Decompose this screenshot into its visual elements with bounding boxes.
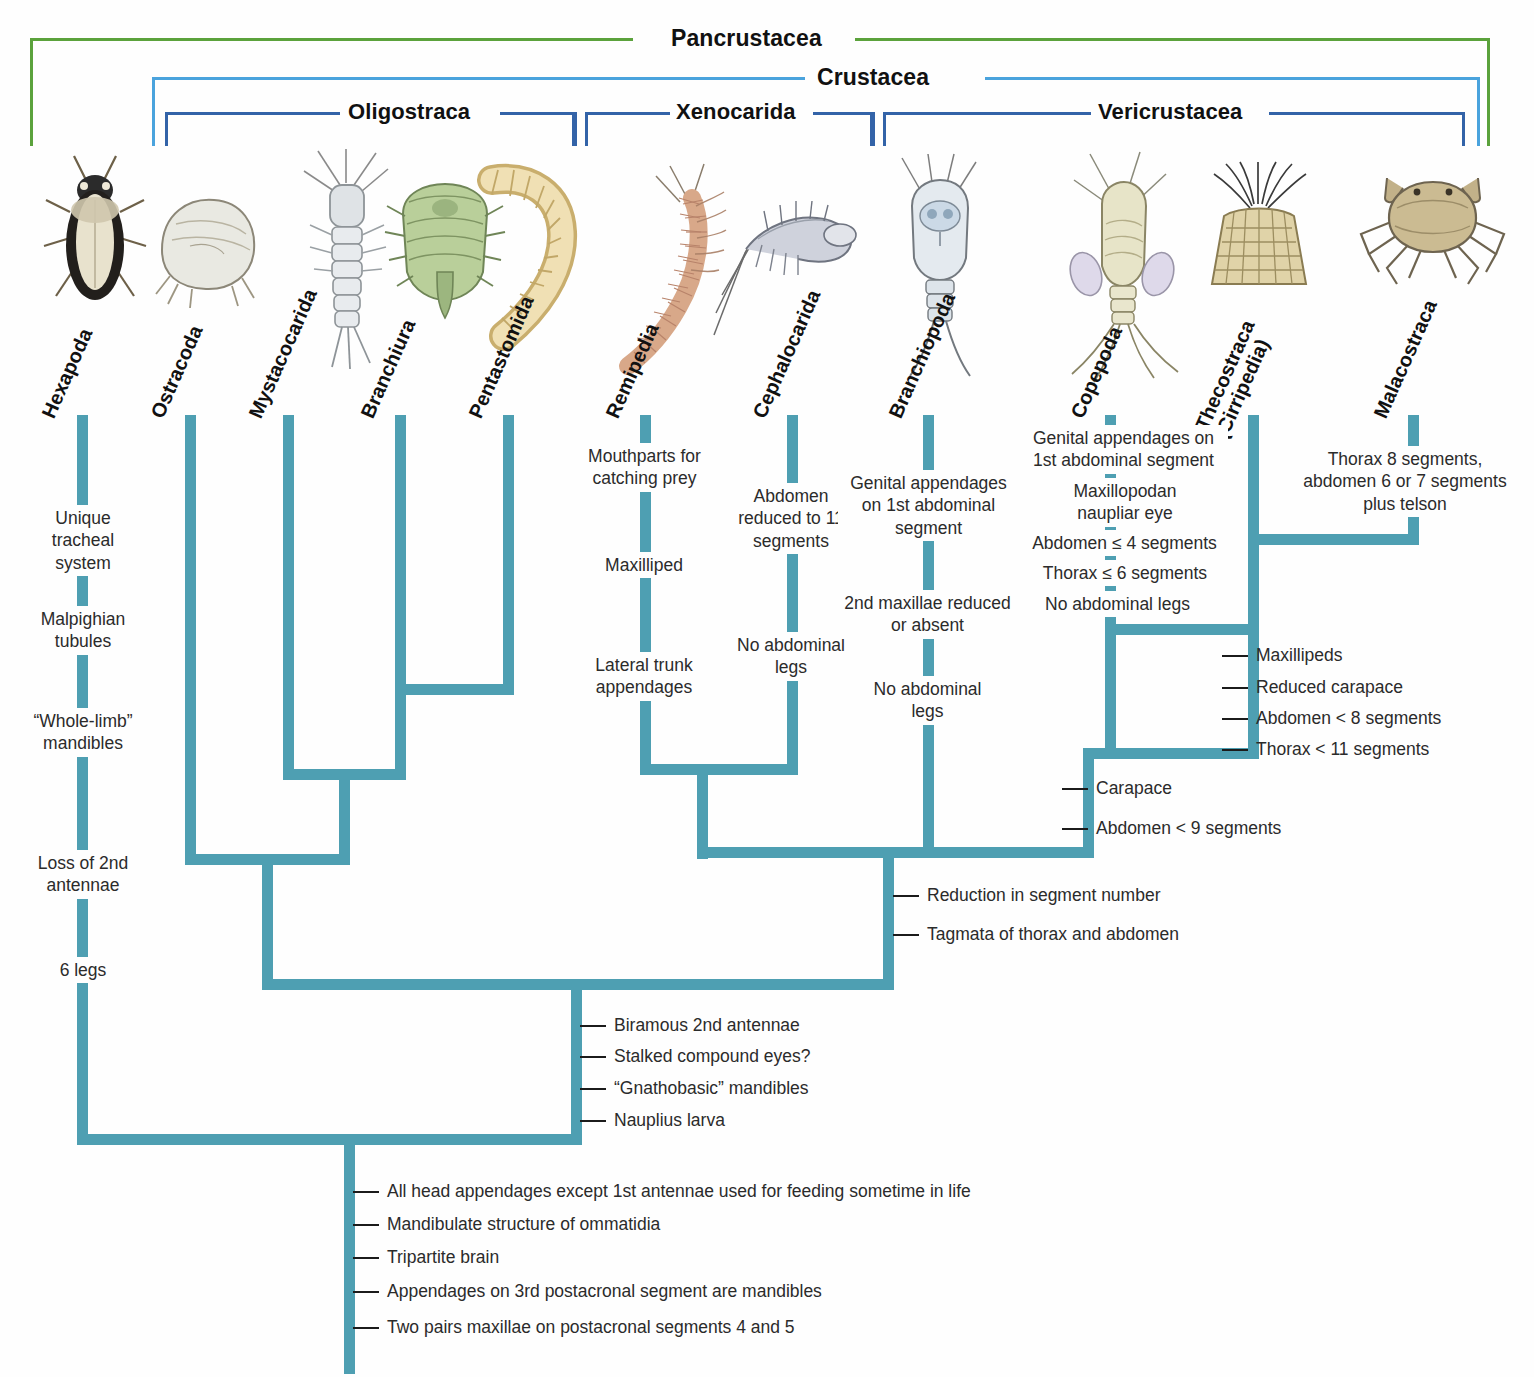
node-copepoda-clade-bar [1105,624,1259,635]
taxon-label-malacostraca: Malacostraca [1370,297,1441,422]
node-tick-label: Carapace [1096,778,1172,799]
character-copepoda-1: Genital appendages on1st abdominal segme… [1019,425,1228,474]
node-tick-root-1: All head appendages except 1st antennae … [353,1181,971,1202]
character-remipedia-2: Maxilliped [582,552,706,578]
node-tick-label: “Gnathobasic” mandibles [614,1078,809,1099]
node-tick-label: Stalked compound eyes? [614,1046,811,1067]
character-hexapoda-1: Uniquetrachealsystem [6,505,160,576]
character-hexapoda-3: “Whole-limb”mandibles [2,708,164,757]
node-vericrustacea-right-stem [1083,748,1094,858]
character-copepoda-4: Thorax ≤ 6 segments [1027,560,1223,586]
character-hexapoda-5: 6 legs [26,957,140,983]
leader-dash [1062,788,1088,790]
bracket-label-oligostraca: Oligostraca [348,101,470,123]
node-tick-label: Abdomen < 9 segments [1096,818,1281,839]
node-tick-crustacea-2: Stalked compound eyes? [580,1046,811,1067]
branch-ostracoda [185,415,196,865]
node-tick-label: Reduced carapace [1256,677,1403,698]
node-tick-label: Nauplius larva [614,1110,725,1131]
leader-dash [893,934,919,936]
node-tick-label: Two pairs maxillae on postacronal segmen… [387,1317,795,1338]
artwork-ostracoda [150,190,265,315]
artwork-remipedia [600,160,730,375]
branch-branchiura [395,415,406,695]
character-cephalocarida-2: No abdominallegs [713,632,869,681]
node-tick-vericrustacea-2: Abdomen < 9 segments [1062,818,1281,839]
leader-dash [1222,687,1248,689]
node-tick-thecomalaco-1: Maxillipeds [1222,645,1343,666]
leader-dash [1062,828,1088,830]
node-tick-root-5: Two pairs maxillae on postacronal segmen… [353,1317,795,1338]
node-vericrustacea-bar [923,847,1094,858]
leader-dash [353,1191,379,1193]
leader-dash [580,1120,606,1122]
node-tick-crustacea-3: “Gnathobasic” mandibles [580,1078,809,1099]
bracket-oligostraca: Oligostraca [165,112,575,146]
character-branchiopoda-1: Genital appendageson 1st abdominalsegmen… [838,470,1019,541]
branch-mystacocarida [283,415,294,780]
artwork-malacostraca [1355,168,1510,293]
taxon-label-thecostraca: Thecostraca (Cirripedia) [1192,317,1278,442]
node-tick-crustacea-1: Biramous 2nd antennae [580,1015,800,1036]
branch-pentastomida [503,415,514,695]
node-copepoda-clade-stem [1105,624,1116,759]
node-tick-label: Mandibulate structure of ommatidia [387,1214,660,1235]
phylogeny-figure: Pancrustacea Crustacea Oligostraca Xenoc… [0,0,1534,1377]
node-oligostraca-stem [262,854,273,990]
character-malacostraca-1: Thorax 8 segments,abdomen 6 or 7 segment… [1292,446,1518,517]
character-remipedia-3: Lateral trunkappendages [574,652,714,701]
bracket-xenocarida: Xenocarida [585,112,873,146]
bracket-label-vericrustacea: Vericrustacea [1098,101,1242,123]
node-tick-xenoveri-1: Reduction in segment number [893,885,1160,906]
node-tick-thecomalaco-3: Abdomen < 8 segments [1222,708,1441,729]
node-tick-label: All head appendages except 1st antennae … [387,1181,971,1202]
node-tick-xenoveri-2: Tagmata of thorax and abdomen [893,924,1179,945]
taxon-label-ostracoda: Ostracoda [147,322,207,421]
node-xeno-veri-bar [697,847,934,858]
node-tick-root-3: Tripartite brain [353,1247,499,1268]
leader-dash [353,1257,379,1259]
artwork-copepoda [1050,150,1200,390]
character-copepoda-5: No abdominal legs [1027,591,1208,617]
artwork-thecostraca [1196,162,1321,292]
bracket-separator-2 [870,112,875,146]
character-remipedia-1: Mouthparts forcatching prey [564,443,725,492]
character-branchiopoda-2: 2nd maxillae reducedor absent [831,590,1024,639]
node-tick-label: Maxillipeds [1256,645,1343,666]
leader-dash [353,1327,379,1329]
character-copepoda-3: Abdomen ≤ 4 segments [1019,530,1230,556]
leader-dash [1222,655,1248,657]
node-tick-vericrustacea-1: Carapace [1062,778,1172,799]
node-xenocarida-stem [697,764,708,859]
node-xeno-veri-stem [883,847,894,990]
character-hexapoda-2: Malpighiantubules [6,606,160,655]
node-tick-label: Tagmata of thorax and abdomen [927,924,1179,945]
character-hexapoda-4: Loss of 2ndantennae [4,850,162,899]
character-copepoda-2: Maxillopodannaupliar eye [1048,478,1202,527]
leader-dash [893,895,919,897]
leader-dash [580,1088,606,1090]
node-xenocarida-bar [640,764,798,775]
branch-cephalocarida [787,415,798,775]
node-vericrustacea-top-bar [1083,748,1116,759]
node-mystacocarida-clade-stem [339,769,350,865]
leader-dash [580,1025,606,1027]
bracket-label-pancrustacea: Pancrustacea [671,27,822,50]
node-tick-thecomalaco-2: Reduced carapace [1222,677,1403,698]
node-branchiura-pentastomida-stem [395,684,406,780]
character-branchiopoda-3: No abdominallegs [853,676,1002,725]
node-tick-label: Appendages on 3rd postacronal segment ar… [387,1281,822,1302]
node-tick-root-2: Mandibulate structure of ommatidia [353,1214,660,1235]
leader-dash [1222,749,1248,751]
node-tick-root-4: Appendages on 3rd postacronal segment ar… [353,1281,822,1302]
artwork-hexapoda [40,150,150,315]
leader-dash [353,1291,379,1293]
branch-thecostraca [1248,415,1259,545]
bracket-vericrustacea: Vericrustacea [883,112,1465,146]
node-thecostraca-malacostraca-bar [1248,534,1419,545]
node-tick-label: Tripartite brain [387,1247,499,1268]
leader-dash [353,1224,379,1226]
bracket-separator-1 [572,112,577,146]
leader-dash [580,1056,606,1058]
artwork-branchiopoda [880,150,1000,380]
